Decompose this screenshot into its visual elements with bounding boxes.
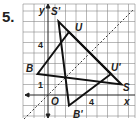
label-u: U xyxy=(75,22,83,33)
y-tick-4: 4 xyxy=(38,40,43,50)
y-axis-label: y xyxy=(38,5,45,16)
x-axis-label: x xyxy=(123,96,130,107)
label-s: S xyxy=(123,82,130,93)
label-b: B xyxy=(26,63,33,74)
origin-label: O xyxy=(51,96,59,107)
y-tick-1: 1 xyxy=(38,80,43,90)
coordinate-plane: y S' U B U' S x O B' 4 1 4 xyxy=(0,0,138,125)
label-b-prime: B' xyxy=(73,109,83,120)
x-tick-4: 4 xyxy=(89,97,94,107)
label-s-prime: S' xyxy=(51,6,61,17)
label-u-prime: U' xyxy=(111,62,121,73)
